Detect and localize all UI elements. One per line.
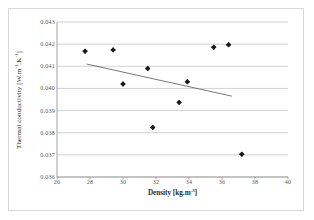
plot-canvas xyxy=(57,22,288,177)
gridlines xyxy=(57,22,288,177)
x-tick-label: 30 xyxy=(120,179,127,185)
y-axis-ticks: 0.0360.0370.0380.0390.0400.0410.0420.043 xyxy=(24,22,55,177)
y-tick-label: 0.039 xyxy=(40,108,55,114)
data-point xyxy=(211,45,216,50)
x-axis-title: Density [kg.m-3] xyxy=(57,189,288,197)
trendline xyxy=(87,64,232,96)
data-point xyxy=(110,47,115,52)
y-axis-title-container: Thermal conductivity [W.m-1.K-1] xyxy=(13,22,25,177)
y-tick-label: 0.041 xyxy=(40,63,55,69)
y-axis-title-sup2: -1 xyxy=(14,53,19,57)
data-point xyxy=(150,125,155,130)
x-tick-label: 26 xyxy=(54,179,61,185)
y-axis-title-mid: .K xyxy=(15,57,23,64)
data-point xyxy=(239,151,244,156)
y-tick-label: 0.043 xyxy=(40,19,55,25)
trendline-group xyxy=(87,64,232,96)
plot-area xyxy=(57,22,288,177)
data-point xyxy=(176,100,181,105)
y-axis-title-tail: ] xyxy=(15,51,23,53)
data-point xyxy=(120,81,125,86)
y-axis-title-main: Thermal conductivity [W.m xyxy=(15,68,23,148)
x-axis-title-main: Density [kg.m xyxy=(148,189,191,197)
x-tick-label: 32 xyxy=(153,179,160,185)
x-tick-label: 34 xyxy=(186,179,193,185)
x-tick-label: 40 xyxy=(285,179,292,185)
y-tick-label: 0.038 xyxy=(40,130,55,136)
y-tick-label: 0.037 xyxy=(40,152,55,158)
y-axis-title: Thermal conductivity [W.m-1.K-1] xyxy=(15,51,23,149)
data-points-group xyxy=(82,42,244,157)
y-tick-label: 0.042 xyxy=(40,41,55,47)
x-axis-title-tail: ] xyxy=(195,189,197,197)
y-tick-label: 0.040 xyxy=(40,85,55,91)
data-point xyxy=(185,79,190,84)
x-tick-label: 28 xyxy=(87,179,94,185)
x-tick-label: 36 xyxy=(219,179,226,185)
axis-lines xyxy=(57,22,288,177)
data-point xyxy=(226,42,231,47)
x-tick-label: 38 xyxy=(252,179,259,185)
chart-figure: 0.0360.0370.0380.0390.0400.0410.0420.043… xyxy=(0,0,314,220)
data-point xyxy=(82,49,87,54)
